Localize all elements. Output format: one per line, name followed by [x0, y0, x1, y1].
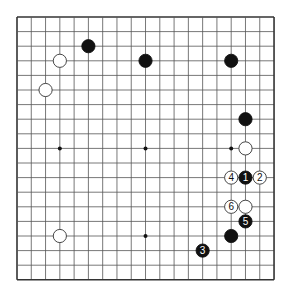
move-number: 5 — [243, 216, 249, 227]
white-stone: 4 — [225, 171, 238, 184]
black-stone — [225, 229, 238, 242]
move-number: 2 — [257, 172, 263, 183]
star-point — [229, 146, 233, 150]
white-stone: 2 — [253, 171, 266, 184]
white-stone — [39, 83, 52, 96]
move-number: 4 — [228, 172, 234, 183]
black-stone: 1 — [239, 171, 252, 184]
white-stone — [239, 142, 252, 155]
star-point — [144, 234, 148, 238]
black-stone: 5 — [239, 215, 252, 228]
move-number: 1 — [243, 172, 249, 183]
white-stone — [53, 54, 66, 67]
black-stone: 3 — [196, 244, 209, 257]
star-point — [58, 146, 62, 150]
move-number: 6 — [228, 201, 234, 212]
black-stone — [239, 113, 252, 126]
white-stone: 6 — [225, 200, 238, 213]
white-stone — [53, 229, 66, 242]
move-number: 3 — [200, 245, 206, 256]
black-stone — [225, 54, 238, 67]
go-board[interactable]: 123456 — [0, 0, 292, 296]
star-point — [144, 146, 148, 150]
black-stone — [82, 40, 95, 53]
white-stone — [239, 200, 252, 213]
black-stone — [139, 54, 152, 67]
